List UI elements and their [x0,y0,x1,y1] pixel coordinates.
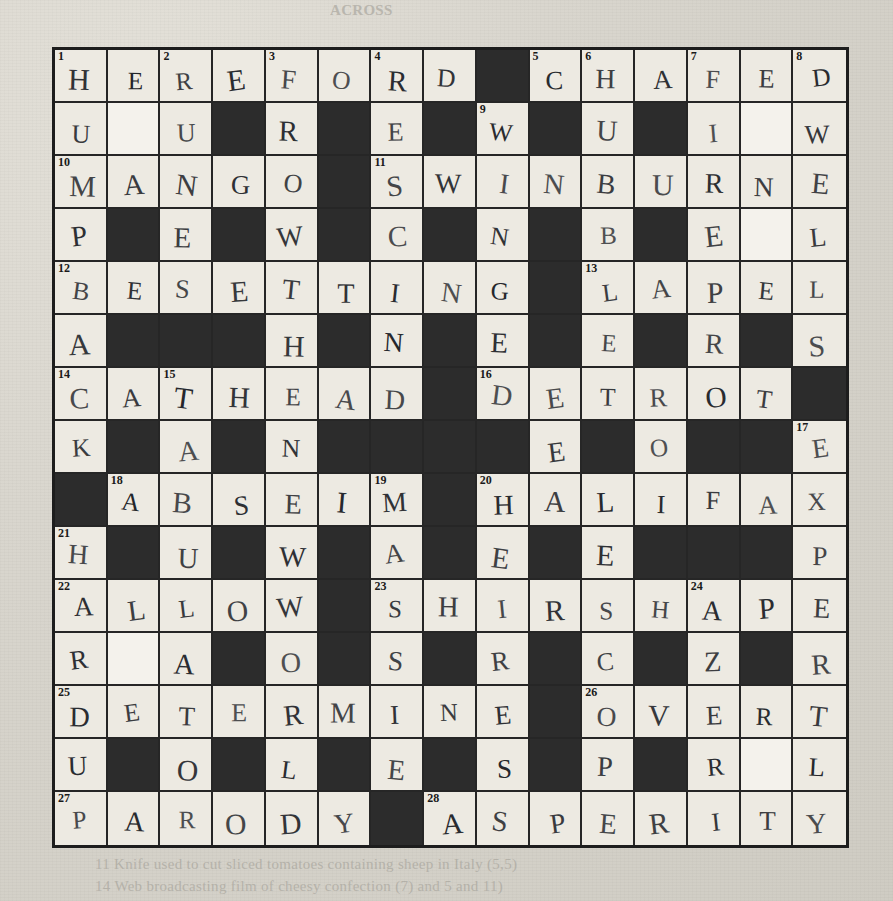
grid-cell[interactable]: G [213,156,266,209]
grid-cell[interactable]: L [793,739,846,792]
grid-cell[interactable]: I [477,156,530,209]
grid-cell[interactable]: 14C [55,368,108,421]
grid-cell[interactable]: L [160,580,213,633]
grid-cell[interactable]: O [266,633,319,686]
grid-cell[interactable]: 22A [55,580,108,633]
grid-cell[interactable]: E [160,209,213,262]
grid-cell[interactable]: R [266,686,319,739]
grid-cell[interactable]: 8D [793,50,846,103]
grid-cell[interactable]: A [55,315,108,368]
grid-cell[interactable]: P [55,209,108,262]
grid-cell[interactable]: N [741,156,794,209]
grid-cell[interactable]: C [371,209,424,262]
grid-cell[interactable]: P [793,527,846,580]
grid-cell[interactable]: I [688,792,741,845]
grid-cell[interactable]: R [793,633,846,686]
grid-cell[interactable]: E [371,103,424,156]
grid-cell[interactable]: A [108,792,161,845]
grid-cell[interactable]: E [477,527,530,580]
grid-cell[interactable]: N [530,156,583,209]
grid-cell[interactable]: E [108,686,161,739]
grid-cell[interactable]: 11S [371,156,424,209]
grid-cell[interactable]: L [266,739,319,792]
grid-cell[interactable]: D [424,50,477,103]
grid-cell[interactable]: A [319,368,372,421]
grid-cell[interactable]: E [266,474,319,527]
grid-cell[interactable]: E [582,315,635,368]
grid-cell[interactable]: H [213,368,266,421]
grid-cell[interactable]: E [213,50,266,103]
grid-cell[interactable]: 28A [424,792,477,845]
grid-cell[interactable]: R [477,633,530,686]
grid-cell[interactable]: Y [793,792,846,845]
grid-cell[interactable]: E [108,262,161,315]
grid-cell[interactable]: R [266,103,319,156]
grid-cell[interactable]: R [55,633,108,686]
grid-cell[interactable]: 15T [160,368,213,421]
grid-cell[interactable]: Z [688,633,741,686]
grid-cell[interactable]: R [688,739,741,792]
grid-cell[interactable]: I [319,474,372,527]
grid-cell[interactable]: I [371,686,424,739]
grid-cell[interactable]: 3F [266,50,319,103]
grid-cell[interactable]: F [688,474,741,527]
grid-cell[interactable]: T [582,368,635,421]
grid-cell[interactable]: U [55,739,108,792]
grid-cell[interactable]: H [635,580,688,633]
grid-cell[interactable]: R [688,315,741,368]
grid-cell[interactable]: T [319,262,372,315]
grid-cell[interactable]: E [793,156,846,209]
grid-cell[interactable]: H [266,315,319,368]
grid-cell[interactable]: 20H [477,474,530,527]
grid-cell[interactable]: 9W [477,103,530,156]
grid-cell[interactable]: 21H [55,527,108,580]
grid-cell[interactable]: O [266,156,319,209]
grid-cell[interactable]: E [477,315,530,368]
grid-cell[interactable]: E [530,368,583,421]
grid-cell[interactable]: D [266,792,319,845]
grid-cell[interactable]: 27P [55,792,108,845]
grid-cell[interactable]: P [688,262,741,315]
grid-cell[interactable]: E [741,262,794,315]
grid-cell[interactable]: E [108,50,161,103]
grid-cell[interactable]: C [582,633,635,686]
grid-cell[interactable]: S [793,315,846,368]
grid-cell[interactable]: I [477,580,530,633]
grid-cell[interactable]: O [213,580,266,633]
grid-cell[interactable]: 4R [371,50,424,103]
grid-cell[interactable]: A [741,474,794,527]
grid-cell[interactable]: E [741,50,794,103]
grid-cell[interactable]: 25D [55,686,108,739]
grid-cell[interactable]: N [477,209,530,262]
grid-cell[interactable]: W [266,580,319,633]
grid-cell[interactable]: A [108,368,161,421]
grid-cell[interactable]: O [688,368,741,421]
grid-cell[interactable]: 5C [530,50,583,103]
grid-cell[interactable]: 7F [688,50,741,103]
grid-cell[interactable]: T [741,792,794,845]
grid-cell[interactable]: K [55,421,108,474]
grid-cell[interactable]: N [266,421,319,474]
grid-cell[interactable]: B [160,474,213,527]
grid-cell[interactable]: O [213,792,266,845]
grid-cell[interactable]: N [371,315,424,368]
grid-cell[interactable]: S [582,580,635,633]
grid-cell[interactable]: A [371,527,424,580]
grid-cell[interactable]: R [635,368,688,421]
grid-cell[interactable] [108,633,161,686]
grid-cell[interactable]: E [477,686,530,739]
grid-cell[interactable]: M [319,686,372,739]
grid-cell[interactable]: V [635,686,688,739]
grid-cell[interactable]: R [530,580,583,633]
grid-cell[interactable]: O [319,50,372,103]
grid-cell[interactable]: U [160,103,213,156]
grid-cell[interactable]: D [371,368,424,421]
grid-cell[interactable]: S [213,474,266,527]
grid-cell[interactable]: S [477,739,530,792]
grid-cell[interactable]: 13L [582,262,635,315]
grid-cell[interactable]: H [424,580,477,633]
grid-cell[interactable]: T [160,686,213,739]
grid-cell[interactable]: B [582,156,635,209]
grid-cell[interactable]: T [266,262,319,315]
grid-cell[interactable]: L [793,262,846,315]
